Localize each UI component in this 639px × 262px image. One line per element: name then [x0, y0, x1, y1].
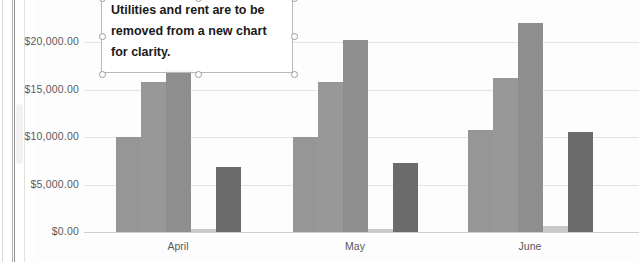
bar[interactable]	[393, 163, 418, 232]
bar[interactable]	[468, 130, 493, 232]
y-axis-tick-label: $5,000.00	[0, 178, 79, 190]
y-axis-tick-label: $20,000.00	[0, 35, 79, 47]
bar[interactable]	[543, 226, 568, 232]
bar[interactable]	[318, 82, 343, 232]
y-axis-tick-label: $15,000.00	[0, 83, 79, 95]
y-axis-tick-label: $0.00	[0, 225, 79, 237]
resize-handle-top-left[interactable]	[99, 0, 106, 2]
axis-baseline	[84, 232, 639, 233]
bar[interactable]	[141, 82, 166, 232]
x-axis-tick-label: April	[167, 240, 188, 252]
bar[interactable]	[116, 137, 141, 232]
bar[interactable]	[493, 78, 518, 232]
resize-handle-bottom-right[interactable]	[291, 71, 298, 78]
bar[interactable]	[518, 23, 543, 233]
resize-handle-bottom-middle[interactable]	[195, 71, 202, 78]
bar[interactable]	[368, 229, 393, 232]
x-axis-tick-label: June	[519, 240, 542, 252]
y-axis-tick-label: $10,000.00	[0, 130, 79, 142]
resize-handle-middle-left[interactable]	[99, 33, 106, 40]
bar[interactable]	[343, 40, 368, 232]
bar[interactable]	[568, 132, 593, 232]
textbox-annotation[interactable]: Utilities and rent are to be removed fro…	[101, 0, 293, 73]
bar[interactable]	[216, 167, 241, 232]
resize-handle-top-middle[interactable]	[195, 0, 202, 2]
x-axis-tick-label: May	[345, 240, 365, 252]
bar[interactable]	[166, 70, 191, 232]
textbox-text: Utilities and rent are to be removed fro…	[111, 0, 286, 63]
chart-screenshot: $0.00$5,000.00$10,000.00$15,000.00$20,00…	[0, 0, 639, 262]
resize-handle-top-right[interactable]	[291, 0, 298, 2]
resize-handle-bottom-left[interactable]	[99, 71, 106, 78]
resize-handle-middle-right[interactable]	[291, 33, 298, 40]
bar[interactable]	[293, 137, 318, 232]
bar[interactable]	[191, 229, 216, 232]
